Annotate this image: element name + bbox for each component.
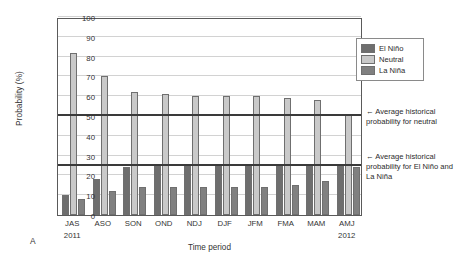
x-tick-label: ASO xyxy=(86,219,120,228)
reference-line xyxy=(58,114,361,116)
x-tick-label: AMJ xyxy=(330,219,364,228)
annotation-neutral-average: ← Average historical probability for neu… xyxy=(366,107,458,127)
legend-item-neutral: Neutral xyxy=(361,54,420,65)
legend: El Niño Neutral La Niña xyxy=(356,38,424,81)
x-tick-label: JAS xyxy=(55,219,89,228)
x-tick-label: JFM xyxy=(238,219,272,228)
legend-item-lanina: La Niña xyxy=(361,65,420,76)
reference-lines xyxy=(58,19,361,215)
x-tick-label: OND xyxy=(147,219,181,228)
y-tick-label: 70 xyxy=(71,73,95,82)
annotation-enso-average: ← Average historical probability for El … xyxy=(366,152,458,182)
plot-area xyxy=(57,18,362,216)
legend-swatch-lanina xyxy=(361,66,375,75)
annotation-neutral-text: Average historical probability for neutr… xyxy=(366,107,437,126)
y-tick-label: 100 xyxy=(71,14,95,23)
x-year-label: 2012 xyxy=(330,231,364,240)
y-tick-label: 30 xyxy=(71,152,95,161)
y-tick-label: 10 xyxy=(71,192,95,201)
legend-swatch-neutral xyxy=(361,55,375,64)
x-tick-label: MAM xyxy=(299,219,333,228)
annotation-enso-text: Average historical probability for El Ni… xyxy=(366,152,453,181)
legend-item-elnino: El Niño xyxy=(361,43,420,54)
y-tick-label: 90 xyxy=(71,33,95,42)
y-tick-label: 60 xyxy=(71,93,95,102)
x-tick-label: DJF xyxy=(208,219,242,228)
x-tick-label: SON xyxy=(116,219,150,228)
panel-label: A xyxy=(30,236,36,246)
legend-label-lanina: La Niña xyxy=(379,66,405,75)
left-arrow-icon: ← xyxy=(366,107,374,116)
legend-label-neutral: Neutral xyxy=(379,55,403,64)
x-tick-label: FMA xyxy=(269,219,303,228)
legend-label-elnino: El Niño xyxy=(379,44,403,53)
reference-line xyxy=(58,164,361,166)
enso-probability-figure: Probability (%) 0102030405060708090100 J… xyxy=(0,0,458,260)
x-year-label: 2011 xyxy=(55,231,89,240)
x-tick-label: NDJ xyxy=(177,219,211,228)
y-tick-label: 50 xyxy=(71,113,95,122)
gridline xyxy=(58,16,361,17)
y-tick-label: 20 xyxy=(71,172,95,181)
y-tick-label: 40 xyxy=(71,132,95,141)
y-tick-label: 80 xyxy=(71,53,95,62)
left-arrow-icon: ← xyxy=(366,152,374,161)
legend-swatch-elnino xyxy=(361,44,375,53)
y-axis-title: Probability (%) xyxy=(15,44,24,154)
x-axis-title: Time period xyxy=(57,243,362,252)
